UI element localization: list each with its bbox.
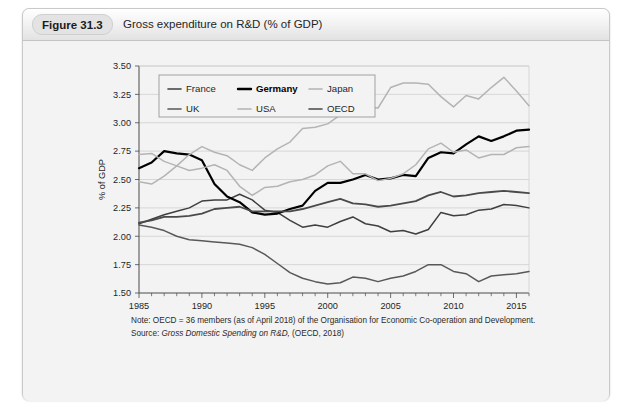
x-axis-tick-label: 2010 (443, 301, 463, 311)
y-axis-tick-label: 3.50 (113, 61, 131, 71)
series-line-oecd (139, 191, 529, 223)
x-axis-tick-label: 1990 (192, 301, 212, 311)
figure-card: Figure 31.3 Gross expenditure on R&D (% … (22, 8, 610, 400)
y-axis-title: % of GDP (97, 159, 107, 200)
source-rest: (OECD, 2018) (290, 329, 344, 338)
x-axis-tick-label: 2000 (317, 301, 337, 311)
figure-title: Gross expenditure on R&D (% of GDP) (123, 18, 322, 30)
y-axis-tick-label: 2.75 (113, 146, 131, 156)
x-axis-tick-label: 1985 (129, 301, 149, 311)
source-label: Source: (131, 329, 159, 338)
legend-label-uk: UK (186, 103, 200, 114)
legend-label-france: France (186, 83, 216, 94)
x-axis-tick-label: 2015 (506, 301, 526, 311)
figure-header: Figure 31.3 Gross expenditure on R&D (% … (23, 9, 609, 41)
chart-body: 1.501.752.002.252.502.753.003.253.501985… (23, 41, 609, 401)
legend-label-usa: USA (256, 103, 276, 114)
note-line: Note: OECD = 36 members (as of April 201… (131, 315, 591, 328)
y-axis-tick-label: 2.25 (113, 203, 131, 213)
y-axis-tick-label: 1.75 (113, 260, 131, 270)
legend-label-oecd: OECD (327, 103, 355, 114)
series-line-uk (139, 225, 529, 284)
chart-plot-area: 1.501.752.002.252.502.753.003.253.501985… (23, 41, 611, 331)
y-axis-tick-label: 2.00 (113, 232, 131, 242)
figure-notes: Note: OECD = 36 members (as of April 201… (131, 315, 591, 340)
y-axis-tick-label: 2.50 (113, 175, 131, 185)
y-axis-tick-label: 1.50 (113, 288, 131, 298)
source-line: Source: Gross Domestic Spending on R&D, … (131, 328, 591, 341)
figure-number-badge: Figure 31.3 (32, 14, 113, 35)
note-label: Note: (131, 316, 151, 325)
y-axis-tick-label: 3.25 (113, 90, 131, 100)
line-chart: 1.501.752.002.252.502.753.003.253.501985… (23, 41, 611, 331)
x-axis-tick-label: 1995 (255, 301, 275, 311)
source-title: Gross Domestic Spending on R&D, (162, 329, 290, 338)
x-axis-tick-label: 2005 (380, 301, 400, 311)
note-text: OECD = 36 members (as of April 2018) of … (153, 316, 536, 325)
y-axis-tick-label: 3.00 (113, 118, 131, 128)
series-line-germany (139, 130, 529, 215)
legend-label-japan: Japan (327, 83, 353, 94)
legend-label-germany: Germany (256, 83, 298, 94)
